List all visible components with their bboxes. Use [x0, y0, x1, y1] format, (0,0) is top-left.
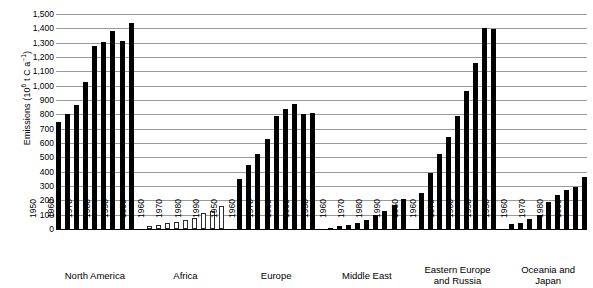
x-axis-tick-label: 1950 [29, 199, 38, 233]
y-axis-tick-label: 700 [40, 125, 54, 134]
x-axis-tick-labels: 19501960197019801990 [56, 233, 134, 267]
x-axis-tick-labels: 19501960197019801990 [328, 233, 406, 267]
gridline [56, 157, 587, 158]
bar [364, 220, 369, 229]
y-axis-tick-label: 1,500 [33, 10, 54, 19]
x-axis-tick-label: 1960 [319, 199, 328, 233]
panel-caption: Oceania andJapan [497, 264, 593, 286]
bar [274, 116, 279, 229]
x-axis-tick-label: 1970 [65, 199, 74, 233]
panel-caption: Eastern Europeand Russia [407, 264, 509, 286]
gridline [56, 143, 587, 144]
bar [437, 154, 442, 229]
y-axis-tick-label: 600 [40, 139, 54, 148]
bar [92, 46, 97, 229]
x-axis-tick-label: 1960 [228, 199, 237, 233]
bar [183, 220, 188, 229]
gridline [56, 114, 587, 115]
x-axis-tick-labels: 19501960197019801990 [419, 233, 497, 267]
bar [546, 202, 551, 229]
x-axis-tick-labels: 19501960197019801990 [509, 233, 587, 267]
x-axis-tick-label: 1980 [355, 199, 364, 233]
x-axis-tick-label: 1980 [174, 199, 183, 233]
x-axis-tick-label: 1970 [337, 199, 346, 233]
panel-middle-east [328, 14, 406, 229]
panel-caption: Africa [135, 270, 237, 281]
x-axis-tick-label: 1960 [137, 199, 146, 233]
bar [419, 193, 424, 229]
bar [455, 116, 460, 229]
gridline [56, 57, 587, 58]
x-axis-tick-label: 1950 [210, 199, 219, 233]
y-axis-tick-label: 1,200 [33, 53, 54, 62]
y-axis-tick-label: 900 [40, 96, 54, 105]
bar [491, 29, 496, 229]
x-axis-tick-label: 1960 [500, 199, 509, 233]
gridline [56, 28, 587, 29]
gridline [56, 129, 587, 130]
bar [147, 226, 152, 229]
y-axis-tick-label: 800 [40, 110, 54, 119]
bar [346, 225, 351, 229]
x-axis-tick-label: 1970 [155, 199, 164, 233]
gridline [56, 172, 587, 173]
y-axis-tick-label: 500 [40, 153, 54, 162]
panel-eastern-europe-and-russia [419, 14, 497, 229]
bar [74, 105, 79, 229]
bar [310, 113, 315, 229]
gridline [56, 86, 587, 87]
bar [110, 31, 115, 229]
bar [509, 224, 514, 229]
x-axis-tick-label: 1990 [554, 199, 563, 233]
x-axis-tick-labels: 19501960197019801990 [237, 233, 315, 267]
x-axis-tick-label: 1980 [446, 199, 455, 233]
bar [201, 213, 206, 229]
bar [328, 228, 333, 230]
bar [129, 23, 134, 229]
gridline [56, 43, 587, 44]
x-axis-tick-label: 1950 [119, 199, 128, 233]
panel-caption: Europe [225, 270, 327, 281]
x-axis-tick-label: 1990 [192, 199, 201, 233]
bar [165, 223, 170, 229]
y-axis-tick-label: 1,400 [33, 24, 54, 33]
x-axis-tick-label: 1980 [264, 199, 273, 233]
y-axis-tick-label: 1,300 [33, 39, 54, 48]
panel-europe [237, 14, 315, 229]
x-axis-tick-label: 1950 [301, 199, 310, 233]
bar [582, 177, 587, 229]
x-axis-tick-label: 1990 [373, 199, 382, 233]
bar [573, 187, 578, 229]
x-axis-tick-label: 1980 [83, 199, 92, 233]
gridline [56, 100, 587, 101]
gridline [56, 71, 587, 72]
panel-north-america [56, 14, 134, 229]
panel-africa [147, 14, 225, 229]
bar [219, 206, 224, 229]
bar [564, 190, 569, 229]
x-axis-tick-label: 1990 [282, 199, 291, 233]
gridline [56, 186, 587, 187]
x-axis-tick-label: 1950 [482, 199, 491, 233]
emissions-bar-chart-figure: Emissions (106 t C a−1) 0100200300400500… [0, 0, 593, 288]
panel-caption: North America [44, 270, 146, 281]
x-axis-tick-label: 1970 [427, 199, 436, 233]
plot-area [56, 14, 587, 229]
bar [527, 219, 532, 229]
bar [292, 104, 297, 229]
x-axis-tick-label: 1980 [536, 199, 545, 233]
panel-oceania-and-japan [509, 14, 587, 229]
x-axis-tick-label: 1970 [518, 199, 527, 233]
y-axis-tick-label: 1,100 [33, 67, 54, 76]
panel-caption: Middle East [316, 270, 418, 281]
x-axis-tick-label: 1990 [464, 199, 473, 233]
y-axis-tick-label: 400 [40, 168, 54, 177]
x-axis-tick-label: 1950 [391, 199, 400, 233]
bar [401, 199, 406, 229]
x-axis-tick-label: 1970 [246, 199, 255, 233]
bar [382, 211, 387, 229]
x-axis-tick-labels: 19501960197019801990 [147, 233, 225, 267]
y-axis-tick-label: 300 [40, 182, 54, 191]
gridline [56, 14, 587, 15]
bar [237, 179, 242, 229]
